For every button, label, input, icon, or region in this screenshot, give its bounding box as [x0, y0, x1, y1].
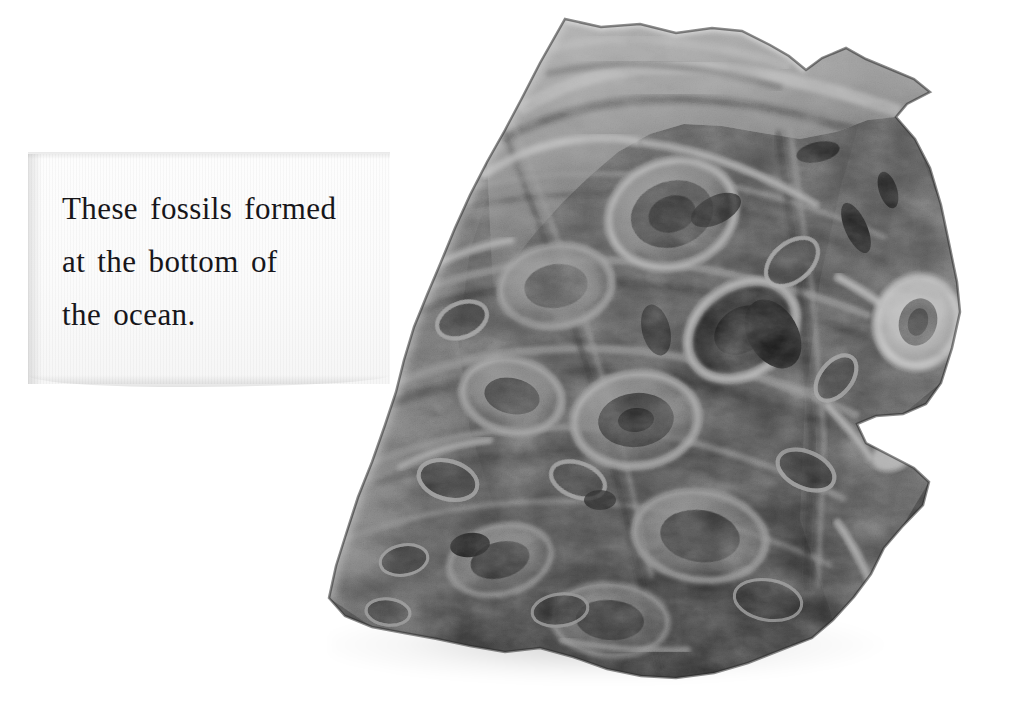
photograph-canvas: These fossils formed at the bottom of th…	[0, 0, 1020, 708]
caption-line-2: at the bottom of	[62, 235, 392, 288]
caption-line-3: the ocean.	[62, 288, 392, 341]
caption-card: These fossils formed at the bottom of th…	[28, 154, 390, 384]
rock-body	[300, 0, 1020, 708]
caption-line-1: These fossils formed	[62, 182, 392, 235]
caption-text-block: These fossils formed at the bottom of th…	[62, 182, 392, 341]
